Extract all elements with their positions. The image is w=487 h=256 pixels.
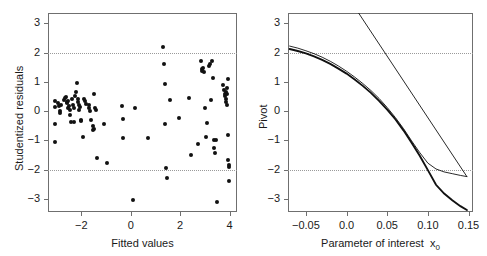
scatter-point bbox=[81, 135, 85, 139]
scatter-point bbox=[196, 142, 200, 146]
scatter-point bbox=[199, 59, 203, 63]
x-tick-mark bbox=[131, 212, 132, 216]
y-tick-mark bbox=[44, 82, 48, 83]
scatter-point bbox=[209, 98, 213, 102]
reference-line bbox=[48, 170, 237, 171]
scatter-point bbox=[88, 109, 92, 113]
scatter-point bbox=[164, 166, 168, 170]
x-tick-mark bbox=[230, 212, 231, 216]
y-tick-mark bbox=[44, 23, 48, 24]
x-tick-label: 0 bbox=[109, 220, 153, 231]
scatter-point bbox=[162, 62, 166, 66]
y-tick-mark bbox=[44, 111, 48, 112]
scatter-point bbox=[161, 45, 165, 49]
y-tick-label: 1 bbox=[16, 76, 40, 87]
scatter-point bbox=[163, 82, 167, 86]
y-tick-label: 2 bbox=[16, 47, 40, 58]
x-tick-label: −2 bbox=[59, 220, 103, 231]
x-tick-mark bbox=[180, 212, 181, 216]
scatter-point bbox=[92, 92, 96, 96]
reference-line bbox=[48, 53, 237, 54]
figure-container: Studentized residuals Fitted values 3210… bbox=[0, 0, 487, 256]
scatter-point bbox=[72, 106, 76, 110]
scatter-point bbox=[120, 104, 124, 108]
scatter-point bbox=[59, 103, 63, 107]
scatter-point bbox=[68, 113, 72, 117]
scatter-point bbox=[227, 165, 231, 169]
y-tick-mark bbox=[44, 140, 48, 141]
scatter-point bbox=[225, 103, 229, 107]
panel-pivot-plot: Pivot Parameter of interest x0 3210−1−2−… bbox=[244, 0, 487, 256]
panel-residual-plot: Studentized residuals Fitted values 3210… bbox=[0, 0, 243, 256]
curve-group bbox=[290, 13, 467, 210]
scatter-point bbox=[212, 146, 216, 150]
pivot-curve-thin bbox=[290, 46, 467, 177]
plot-area-left bbox=[48, 13, 237, 212]
y-tick-label: −2 bbox=[16, 164, 40, 175]
x-tick-label: 2 bbox=[158, 220, 202, 231]
scatter-point bbox=[203, 106, 207, 110]
scatter-point bbox=[165, 176, 169, 180]
scatter-point bbox=[187, 96, 191, 100]
y-tick-label: 0 bbox=[16, 105, 40, 116]
x-axis-title-left: Fitted values bbox=[103, 238, 183, 249]
scatter-point bbox=[94, 108, 98, 112]
pivot-curves bbox=[244, 0, 487, 256]
scatter-point bbox=[78, 105, 82, 109]
scatter-point bbox=[202, 70, 206, 74]
scatter-point bbox=[224, 90, 228, 94]
pivot-curve-thick bbox=[290, 49, 467, 210]
y-tick-label: −1 bbox=[16, 134, 40, 145]
scatter-point bbox=[121, 117, 125, 121]
scatter-point bbox=[213, 151, 217, 155]
scatter-point bbox=[102, 122, 106, 126]
scatter-point bbox=[73, 94, 77, 98]
x-tick-mark bbox=[81, 212, 82, 216]
y-tick-mark bbox=[44, 199, 48, 200]
y-tick-label: 3 bbox=[16, 17, 40, 28]
scatter-point bbox=[177, 116, 181, 120]
y-tick-label: −3 bbox=[16, 193, 40, 204]
scatter-point bbox=[204, 135, 208, 139]
scatter-point bbox=[133, 106, 137, 110]
